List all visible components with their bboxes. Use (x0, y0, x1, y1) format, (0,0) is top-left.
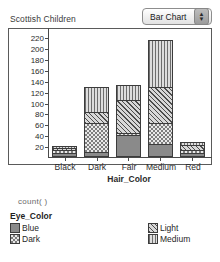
y-axis-tick-mark (45, 82, 48, 83)
bar-segment[interactable] (117, 136, 140, 156)
y-axis-tick-mark (45, 71, 48, 72)
count-label: count( ) (18, 197, 48, 206)
bar-segment[interactable] (149, 124, 172, 145)
y-axis-tick-label: 80 (35, 110, 44, 119)
bar-group (176, 34, 208, 157)
legend-item[interactable]: Dark (10, 233, 110, 244)
legend-swatch (148, 223, 158, 233)
legend-title: Eye_Color (10, 211, 52, 221)
x-axis-tick-label: Medium (145, 162, 177, 172)
page-title: Scottish Children (10, 14, 76, 24)
y-axis-tick-label: 20 (35, 143, 44, 152)
legend-label: Medium (160, 234, 190, 244)
legend-swatch (10, 223, 20, 233)
x-axis-tick-label: Red (177, 162, 209, 172)
x-axis-tick-label: Dark (81, 162, 113, 172)
y-axis-tick-label: 100 (31, 99, 44, 108)
y-axis-tick-mark (45, 49, 48, 50)
bar-group (81, 34, 113, 157)
legend-item[interactable]: Light (110, 222, 210, 233)
bar-segment[interactable] (149, 88, 172, 125)
x-axis-line (48, 157, 212, 158)
bar-segment[interactable] (85, 153, 108, 156)
y-axis-tick-mark (45, 136, 48, 137)
bar-segment[interactable] (85, 113, 108, 124)
x-axis-tick-mark (192, 157, 193, 161)
legend-label: Light (160, 223, 178, 233)
x-axis-title: Hair_Color (49, 174, 209, 184)
bar-segment[interactable] (149, 41, 172, 88)
stacked-bar[interactable] (180, 142, 205, 157)
y-axis-tick-mark (45, 125, 48, 126)
x-axis-tick-mark (160, 157, 161, 161)
y-axis-tick-mark (45, 93, 48, 94)
bar-segment[interactable] (149, 145, 172, 156)
y-axis-tick-mark (45, 104, 48, 105)
bar-segment[interactable] (53, 154, 76, 156)
y-axis-tick-label: 200 (31, 45, 44, 54)
legend-item[interactable]: Blue (10, 222, 110, 233)
stacked-bar[interactable] (148, 40, 173, 157)
legend-swatch (10, 234, 20, 244)
bar-group (144, 34, 176, 157)
chart-plot-area: 20406080100120140160180200220 (48, 34, 208, 158)
bar-segment[interactable] (85, 124, 108, 153)
y-axis-tick-label: 140 (31, 77, 44, 86)
legend: BlueLightDarkMedium (10, 222, 210, 244)
stacked-bar[interactable] (52, 146, 77, 157)
y-axis-tick-mark (45, 60, 48, 61)
bar-segment[interactable] (181, 154, 204, 156)
y-axis-tick-label: 60 (35, 121, 44, 130)
legend-swatch (148, 234, 158, 244)
chart-type-dropdown[interactable]: Bar Chart ▲ ▼ (142, 8, 212, 25)
chart-type-value: Bar Chart (150, 12, 191, 22)
legend-label: Blue (22, 223, 39, 233)
bar-series-container (49, 34, 208, 157)
y-axis-tick-mark (45, 114, 48, 115)
legend-item[interactable]: Medium (110, 233, 210, 244)
y-axis-tick-label: 160 (31, 66, 44, 75)
bar-group (49, 34, 81, 157)
bar-segment[interactable] (117, 86, 140, 100)
chevron-down-icon: ▼ (199, 17, 205, 22)
bar-group (113, 34, 145, 157)
y-axis-tick-label: 220 (31, 34, 44, 43)
x-axis-tick-labels: BlackDarkFairMediumRed (49, 162, 209, 172)
y-axis-tick-label: 120 (31, 88, 44, 97)
legend-label: Dark (22, 234, 40, 244)
stacked-bar[interactable] (84, 87, 109, 157)
x-axis-tick-mark (65, 157, 66, 161)
y-axis-tick-label: 180 (31, 56, 44, 65)
bar-segment[interactable] (85, 88, 108, 112)
chart-header: Scottish Children Bar Chart ▲ ▼ (8, 8, 212, 30)
x-axis-tick-label: Black (49, 162, 81, 172)
y-axis-tick-mark (45, 38, 48, 39)
stacked-bar[interactable] (116, 85, 141, 157)
x-axis-tick-mark (97, 157, 98, 161)
y-axis-tick-mark (45, 147, 48, 148)
x-axis-tick-label: Fair (113, 162, 145, 172)
bar-segment[interactable] (117, 101, 140, 135)
x-axis-tick-mark (128, 157, 129, 161)
stepper-icon[interactable]: ▲ ▼ (194, 8, 209, 25)
y-axis-tick-label: 40 (35, 132, 44, 141)
